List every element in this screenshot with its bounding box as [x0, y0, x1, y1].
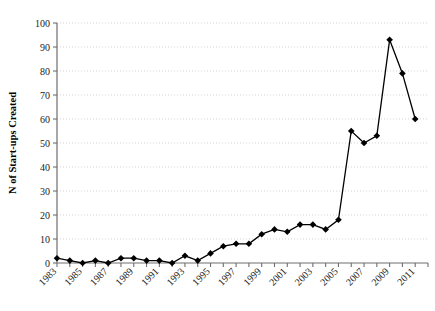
y-tick-label: 30 — [40, 186, 50, 197]
data-point-marker — [412, 116, 419, 123]
y-tick-label: 60 — [40, 114, 50, 125]
y-tick-label: 80 — [40, 66, 50, 77]
y-tick-label: 10 — [40, 234, 50, 245]
data-point-marker — [105, 260, 112, 267]
data-point-marker — [54, 255, 61, 262]
x-tick-label: 2009 — [369, 266, 391, 288]
data-point-marker — [79, 260, 86, 267]
y-tick-label: 20 — [40, 210, 50, 221]
data-point-marker — [271, 226, 278, 233]
x-tick-label: 2005 — [318, 266, 340, 288]
y-axis-title: N of Start-ups Created — [7, 92, 18, 194]
x-tick-label: 1983 — [36, 266, 58, 288]
x-tick-label: 1999 — [241, 266, 263, 288]
data-point-marker — [130, 255, 137, 262]
y-tick-label: 40 — [40, 162, 50, 173]
data-point-marker — [207, 250, 214, 257]
data-point-marker — [182, 253, 189, 260]
data-point-marker — [118, 255, 125, 262]
data-point-marker — [399, 70, 406, 77]
x-tick-label: 2003 — [292, 266, 314, 288]
data-point-marker — [310, 221, 317, 228]
data-point-marker — [297, 221, 304, 228]
y-tick-label: 90 — [40, 42, 50, 53]
y-tick-label: 70 — [40, 90, 50, 101]
x-tick-label: 1993 — [164, 266, 186, 288]
x-tick-label: 1987 — [88, 266, 110, 288]
x-tick-label: 1991 — [139, 266, 161, 288]
data-point-marker — [284, 229, 291, 236]
x-tick-label: 2011 — [395, 266, 417, 288]
data-point-marker — [374, 133, 381, 140]
data-line — [57, 40, 415, 263]
x-tick-label: 1997 — [216, 266, 238, 288]
x-tick-label: 1989 — [113, 266, 135, 288]
data-point-marker — [220, 243, 227, 250]
data-point-marker — [233, 241, 240, 248]
x-tick-label: 2007 — [344, 266, 366, 288]
data-point-marker — [386, 37, 393, 44]
line-chart: 0102030405060708090100198319851987198919… — [0, 0, 435, 311]
x-tick-label: 1985 — [62, 266, 84, 288]
y-tick-label: 100 — [35, 18, 50, 29]
x-tick-label: 2001 — [267, 266, 289, 288]
y-tick-label: 50 — [40, 138, 50, 149]
data-point-marker — [169, 260, 176, 267]
chart-figure: 0102030405060708090100198319851987198919… — [0, 0, 435, 311]
x-tick-label: 1995 — [190, 266, 212, 288]
